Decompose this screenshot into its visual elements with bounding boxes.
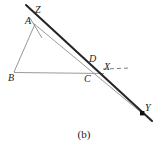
vertex-label-b: B: [8, 73, 14, 83]
vertex-label-x: X: [104, 62, 110, 72]
vertex-label-a: A: [25, 16, 31, 26]
vertex-label-z: Z: [35, 5, 41, 15]
point-marker-y: [140, 111, 144, 115]
vertex-label-y: Y: [145, 103, 151, 113]
segment-a-stub: [30, 18, 42, 38]
segment-ab: [14, 24, 35, 72]
vertex-label-c: C: [84, 74, 91, 84]
figure-caption: (b): [0, 128, 168, 140]
vertex-label-d: D: [89, 54, 96, 64]
geometry-figure: Z A B D X C Y (b): [0, 0, 168, 154]
